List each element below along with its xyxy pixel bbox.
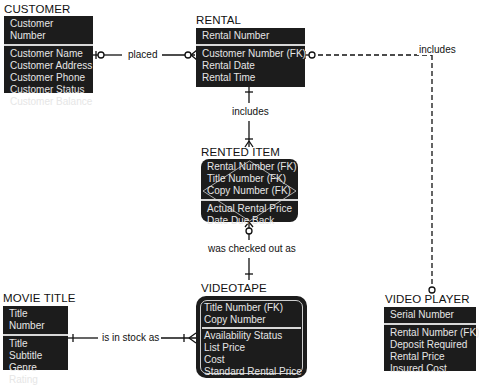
attribute: Customer Phone: [10, 72, 87, 84]
customer-attributes: Customer Name Customer Address Customer …: [4, 46, 93, 110]
rental-entity-title: RENTAL: [196, 14, 241, 26]
attribute: Title: [9, 338, 62, 350]
attribute: Customer Balance: [10, 96, 87, 108]
videotape-entity[interactable]: Title Number (FK) Copy Number Availabili…: [196, 296, 307, 378]
attribute: Customer Name: [10, 48, 87, 60]
attribute: Insured Cost: [390, 363, 470, 375]
key-line: Rental Number (FK): [207, 161, 292, 173]
attribute: Subtitle: [9, 350, 62, 362]
customer-primary-key: Customer Number: [4, 16, 93, 46]
attribute: Date Due Back: [207, 215, 292, 227]
key-line: Copy Number: [204, 314, 299, 326]
customer-entity[interactable]: Customer Number Customer Name Customer A…: [4, 16, 93, 93]
attribute: Genre: [9, 362, 62, 374]
attribute: Customer Number (FK): [202, 48, 299, 60]
movie-title-primary-key: Title Number: [3, 306, 68, 336]
checked-out-label: was checked out as: [206, 243, 298, 254]
rented-item-entity[interactable]: Rental Number (FK) Title Number (FK) Cop…: [201, 159, 298, 222]
rented-item-attributes: Actual Rental Price Date Due Back: [201, 201, 298, 229]
includes-player-connector: [305, 51, 435, 293]
video-player-attributes: Rental Number (FK) Deposit Required Rent…: [384, 325, 476, 377]
movie-title-entity-title: MOVIE TITLE: [3, 292, 75, 304]
rented-item-primary-key: Rental Number (FK) Title Number (FK) Cop…: [201, 159, 298, 201]
attribute: Rental Number (FK): [390, 327, 470, 339]
rental-attributes: Customer Number (FK) Rental Date Rental …: [196, 46, 305, 86]
key-line: Copy Number (FK): [207, 185, 292, 197]
video-player-entity-title: VIDEO PLAYER: [385, 293, 470, 305]
attribute: Rating: [9, 374, 62, 386]
attribute: List Price: [204, 342, 299, 354]
attribute: Standard Rental Price: [204, 366, 299, 378]
movie-title-entity[interactable]: Title Number Title Subtitle Genre Rating: [3, 306, 68, 370]
video-player-primary-key: Serial Number: [384, 307, 476, 325]
rental-entity[interactable]: Rental Number Customer Number (FK) Renta…: [196, 28, 305, 87]
attribute: Deposit Required: [390, 339, 470, 351]
attribute: Customer Address: [10, 60, 87, 72]
attribute: Availability Status: [204, 330, 299, 342]
videotape-primary-key: Title Number (FK) Copy Number: [202, 302, 301, 329]
key-line: Title Number (FK): [207, 173, 292, 185]
videotape-attributes: Availability Status List Price Cost Stan…: [196, 329, 307, 379]
rented-item-entity-title: RENTED ITEM: [201, 146, 280, 158]
includes-player-label: includes: [417, 44, 458, 55]
placed-label: placed: [126, 49, 159, 60]
attribute: Rental Time: [202, 72, 299, 84]
key-line: Title Number (FK): [204, 302, 299, 314]
attribute: Actual Rental Price: [207, 203, 292, 215]
videotape-entity-title: VIDEOTAPE: [201, 282, 267, 294]
attribute: Rental Price: [390, 351, 470, 363]
includes-item-label: includes: [230, 106, 271, 117]
customer-entity-title: CUSTOMER: [4, 3, 70, 15]
rental-primary-key: Rental Number: [196, 28, 305, 46]
attribute: Cost: [204, 354, 299, 366]
attribute: Rental Date: [202, 60, 299, 72]
in-stock-label: is in stock as: [100, 332, 161, 343]
attribute: Customer Status: [10, 84, 87, 96]
movie-title-attributes: Title Subtitle Genre Rating: [3, 336, 68, 388]
video-player-entity[interactable]: Serial Number Rental Number (FK) Deposit…: [384, 307, 476, 371]
includes-item-connector: [245, 87, 253, 147]
